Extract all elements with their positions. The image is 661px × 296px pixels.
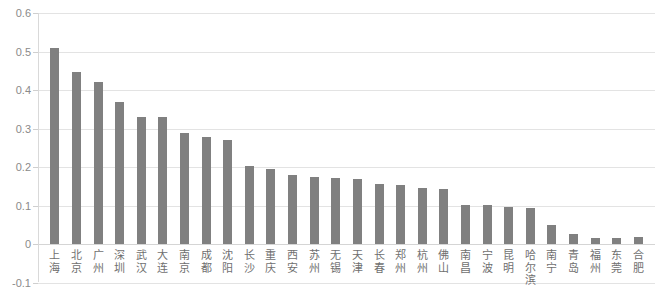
y-axis-tick [33, 244, 38, 245]
y-axis-tick [33, 13, 38, 14]
bar-group: 宁波 [476, 0, 498, 296]
x-axis-category-label: 福州 [584, 249, 606, 274]
y-axis-tick [33, 90, 38, 91]
x-axis-category-label: 大连 [152, 249, 174, 274]
bar[interactable] [180, 133, 189, 244]
bars-layer: 上海北京广州深圳武汉大连南京成都沈阳长沙重庆西安苏州无锡天津长春郑州杭州佛山南昌… [38, 0, 655, 296]
y-axis-tick [33, 129, 38, 130]
x-axis-category-label: 南宁 [541, 249, 563, 274]
bar[interactable] [115, 102, 124, 244]
bar[interactable] [353, 179, 362, 244]
bar-group: 上海 [44, 0, 66, 296]
bar[interactable] [158, 117, 167, 244]
x-axis-category-label: 南昌 [455, 249, 477, 274]
bar[interactable] [72, 72, 81, 244]
bar[interactable] [547, 225, 556, 244]
y-axis-tick [33, 167, 38, 168]
bar-group: 昆明 [498, 0, 520, 296]
bar-group: 广州 [87, 0, 109, 296]
bar-group: 哈尔滨 [519, 0, 541, 296]
x-axis-category-label: 长春 [368, 249, 390, 274]
bar-group: 合肥 [628, 0, 650, 296]
bar[interactable] [612, 238, 621, 244]
bar-group: 佛山 [433, 0, 455, 296]
x-axis-category-label: 杭州 [411, 249, 433, 274]
bar[interactable] [634, 237, 643, 244]
bar[interactable] [526, 208, 535, 244]
bar[interactable] [310, 177, 319, 244]
bar-chart: 0.60.50.40.30.20.10-0.1 上海北京广州深圳武汉大连南京成都… [0, 0, 661, 296]
bar-group: 杭州 [411, 0, 433, 296]
x-axis-category-label: 上海 [44, 249, 66, 274]
bar[interactable] [439, 189, 448, 244]
x-axis-category-label: 郑州 [390, 249, 412, 274]
bar[interactable] [94, 82, 103, 244]
bar-group: 福州 [584, 0, 606, 296]
x-axis-category-label: 青岛 [563, 249, 585, 274]
y-axis-tick [33, 283, 38, 284]
y-axis-tick [33, 52, 38, 53]
bar-group: 南宁 [541, 0, 563, 296]
bar[interactable] [418, 188, 427, 244]
x-axis-category-label: 佛山 [433, 249, 455, 274]
x-axis-category-label: 成都 [195, 249, 217, 274]
x-axis-category-label: 宁波 [476, 249, 498, 274]
bar-group: 长春 [368, 0, 390, 296]
bar[interactable] [223, 140, 232, 244]
bar-group: 青岛 [563, 0, 585, 296]
bar[interactable] [202, 137, 211, 244]
x-axis-category-label: 天津 [347, 249, 369, 274]
y-axis-tick-label: 0 [1, 239, 31, 250]
bar[interactable] [375, 184, 384, 244]
bar-group: 郑州 [390, 0, 412, 296]
y-axis-tick-label: 0.2 [1, 162, 31, 173]
x-axis-category-label: 无锡 [325, 249, 347, 274]
y-axis-tick-label: -0.1 [1, 278, 31, 289]
bar-group: 成都 [195, 0, 217, 296]
bar[interactable] [137, 117, 146, 244]
bar-group: 北京 [66, 0, 88, 296]
bar-group: 南京 [174, 0, 196, 296]
bar[interactable] [288, 175, 297, 244]
x-axis-category-label: 苏州 [303, 249, 325, 274]
bar-group: 沈阳 [217, 0, 239, 296]
bar[interactable] [331, 178, 340, 244]
x-axis-category-label: 西安 [282, 249, 304, 274]
x-axis-category-label: 南京 [174, 249, 196, 274]
x-axis-category-label: 合肥 [628, 249, 650, 274]
x-axis-category-label: 沈阳 [217, 249, 239, 274]
x-axis-category-label: 重庆 [260, 249, 282, 274]
bar[interactable] [569, 234, 578, 244]
bar-group: 苏州 [303, 0, 325, 296]
x-axis-category-label: 哈尔滨 [519, 249, 541, 287]
y-axis-tick-label: 0.6 [1, 8, 31, 19]
bar[interactable] [266, 169, 275, 244]
bar[interactable] [50, 48, 59, 244]
y-axis-tick-label: 0.5 [1, 47, 31, 58]
bar-group: 南昌 [455, 0, 477, 296]
bar-group: 无锡 [325, 0, 347, 296]
x-axis-category-label: 长沙 [239, 249, 261, 274]
bar-group: 天津 [347, 0, 369, 296]
x-axis-category-label: 东莞 [606, 249, 628, 274]
y-axis-tick [33, 206, 38, 207]
bar-group: 武汉 [130, 0, 152, 296]
bar-group: 东莞 [606, 0, 628, 296]
bar[interactable] [483, 205, 492, 244]
bar-group: 重庆 [260, 0, 282, 296]
bar[interactable] [504, 207, 513, 244]
y-axis-labels: 0.60.50.40.30.20.10-0.1 [0, 0, 31, 296]
bar[interactable] [461, 205, 470, 244]
bar-group: 大连 [152, 0, 174, 296]
x-axis-category-label: 武汉 [130, 249, 152, 274]
bar-group: 长沙 [239, 0, 261, 296]
bar[interactable] [396, 185, 405, 244]
y-axis-tick-label: 0.4 [1, 85, 31, 96]
y-axis-tick-label: 0.3 [1, 124, 31, 135]
bar-group: 西安 [282, 0, 304, 296]
bar[interactable] [591, 238, 600, 244]
y-axis-tick-label: 0.1 [1, 201, 31, 212]
bar[interactable] [245, 166, 254, 244]
x-axis-category-label: 北京 [66, 249, 88, 274]
x-axis-category-label: 深圳 [109, 249, 131, 274]
